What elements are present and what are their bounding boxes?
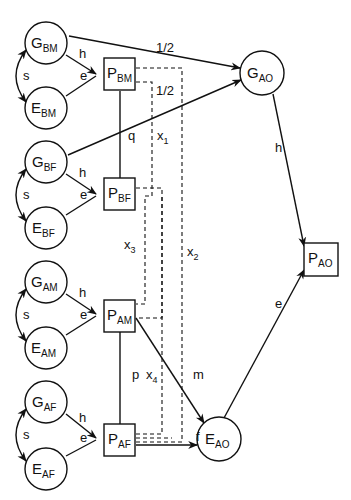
- g-bm-to-g-ao: [69, 36, 240, 68]
- h-label: h: [79, 46, 86, 61]
- e-label: e: [80, 430, 87, 445]
- g-ao-to-p-ao: [273, 94, 304, 246]
- g-bf-to-g-ao: [68, 80, 241, 155]
- e-bm-node: EBM: [25, 87, 67, 129]
- e-label: e: [80, 187, 87, 202]
- s-label: s: [23, 307, 30, 322]
- s-label: s: [23, 427, 30, 442]
- p-af-node: PAF: [104, 424, 135, 456]
- e-label: e: [80, 307, 87, 322]
- e-ao-node: EAO: [197, 417, 241, 461]
- p-ao-node: PAO: [304, 243, 338, 276]
- e-ao-to-p-ao: [224, 270, 304, 418]
- s-label: s: [23, 68, 30, 83]
- x2-path: [136, 68, 182, 442]
- g-bm-node: GBM: [25, 22, 67, 64]
- path-diagram: GBM EBM GBF EBF GAM EAM GAF EAF GAO EAO …: [0, 0, 351, 500]
- x3-label: x3: [124, 237, 136, 255]
- half-label-bf: 1/2: [156, 83, 174, 98]
- x4-path: [136, 196, 162, 434]
- p-bm-node: PBM: [104, 58, 135, 90]
- e-am-node: EAM: [25, 327, 67, 369]
- g-af-node: GAF: [25, 381, 67, 423]
- e-bf-node: EBF: [25, 207, 67, 249]
- m-label: m: [193, 367, 204, 382]
- e-af-node: EAF: [25, 448, 67, 490]
- g-ao-node: GAO: [240, 51, 284, 95]
- g-am-node: GAM: [25, 261, 67, 303]
- e-label: e: [80, 68, 87, 83]
- x4-label: x4: [146, 367, 158, 385]
- f-label: f: [196, 429, 200, 444]
- e-label-ao: e: [275, 296, 282, 311]
- h-label: h: [79, 410, 86, 425]
- q-label: q: [128, 128, 135, 143]
- g-bf-node: GBF: [25, 141, 67, 183]
- x1-path: [136, 82, 152, 304]
- p-bf-node: PBF: [104, 178, 135, 210]
- s-label: s: [23, 187, 30, 202]
- x1-label: x1: [157, 128, 169, 146]
- h-label: h: [79, 165, 86, 180]
- h-label: h: [79, 285, 86, 300]
- h-label-ao: h: [275, 140, 282, 155]
- p-label: p: [132, 367, 139, 382]
- half-label-bm: 1/2: [156, 40, 174, 55]
- x2-label: x2: [187, 244, 199, 262]
- x3-path: [136, 188, 162, 318]
- p-am-node: PAM: [104, 300, 135, 332]
